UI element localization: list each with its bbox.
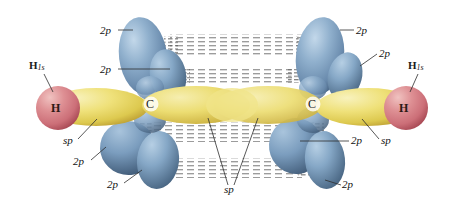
label-2p-bottom-left-upper: 2p [73,156,84,167]
atom-label-h-right: H [399,102,408,114]
label-2p-top-left-inner: 2p [100,64,111,75]
leader-2p-top-right-inner [360,54,377,66]
sp-hybrid-sigma-framework [44,86,420,126]
acetylene-orbital-diagram: H1s H1s H C C H 2p 2p 2p 2p 2p 2p 2p 2p … [0,0,461,204]
label-sp-left: sp [63,135,73,146]
orbital-illustration [0,0,461,204]
label-2p-top-right-inner: 2p [379,48,390,59]
label-2p-bottom-right-upper: 2p [351,135,362,146]
label-2p-top-right-outer: 2p [356,25,367,36]
label-h1s-right: H1s [408,60,424,72]
atom-label-h-left: H [51,102,60,114]
label-sp-right: sp [381,135,391,146]
label-sp-center: sp [224,184,234,195]
label-h1s-left: H1s [29,60,45,72]
atom-label-c-right: C [308,98,316,110]
label-2p-bottom-right-lower: 2p [342,179,353,190]
label-2p-top-left-outer: 2p [100,25,111,36]
atom-label-c-left: C [146,98,154,110]
label-2p-bottom-left-lower: 2p [107,179,118,190]
